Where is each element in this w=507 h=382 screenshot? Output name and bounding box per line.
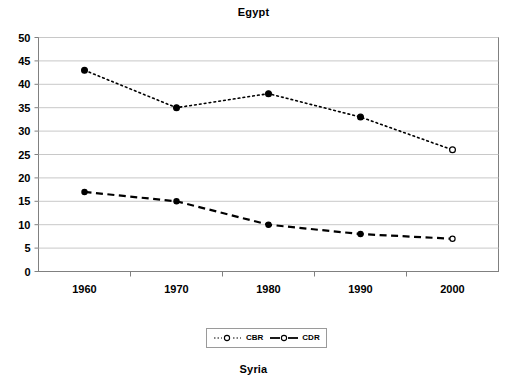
- data-point-cdr-1980: [266, 222, 271, 227]
- data-point-cbr-1990: [358, 114, 364, 120]
- legend-label-cdr: CDR: [302, 334, 319, 342]
- y-axis-tick-label: 10: [18, 219, 30, 231]
- data-point-cdr-2000: [450, 236, 455, 241]
- data-point-cdr-1990: [358, 231, 363, 236]
- y-axis-tick-label: 45: [18, 55, 30, 67]
- y-axis-tick-label: 50: [18, 32, 30, 44]
- x-axis-tick-label: 1980: [256, 283, 280, 295]
- x-axis-tick-label: 2000: [440, 283, 464, 295]
- data-point-cbr-1980: [266, 91, 272, 97]
- next-chart-title: Syria: [0, 363, 507, 375]
- chart-legend: CBR CDR: [206, 328, 327, 348]
- x-axis-tick-label: 1970: [164, 283, 188, 295]
- data-point-cbr-1970: [174, 105, 180, 111]
- y-axis-tick-labels: 05101520253035404550: [18, 32, 30, 278]
- legend-entry-cdr: CDR: [269, 333, 319, 343]
- y-axis-ticks: [35, 38, 39, 272]
- x-axis-tick-label: 1960: [72, 283, 96, 295]
- y-axis-tick-label: 5: [24, 242, 30, 254]
- x-axis-tick-label: 1990: [348, 283, 372, 295]
- chart-plot-svg: 05101520253035404550 1960197019801990200…: [0, 0, 507, 382]
- legend-label-cbr: CBR: [246, 334, 263, 342]
- data-point-cbr-1960: [82, 67, 88, 73]
- data-point-cdr-1970: [174, 199, 179, 204]
- data-point-cbr-2000: [450, 147, 456, 153]
- legend-swatch-cdr-icon: [269, 333, 299, 343]
- legend-swatch-cbr-icon: [213, 333, 243, 343]
- data-point-cdr-1960: [82, 189, 87, 194]
- y-axis-tick-label: 30: [18, 125, 30, 137]
- chart-container: Egypt 05101520253035404550 1960197019801…: [0, 0, 507, 382]
- x-axis-tick-labels: 19601970198019902000: [72, 283, 464, 295]
- y-axis-tick-label: 20: [18, 172, 30, 184]
- y-axis-tick-label: 0: [24, 266, 30, 278]
- y-axis-tick-label: 15: [18, 195, 30, 207]
- y-axis-tick-label: 40: [18, 78, 30, 90]
- y-axis-tick-label: 25: [18, 149, 30, 161]
- y-axis-tick-label: 35: [18, 102, 30, 114]
- x-axis-ticks: [131, 272, 407, 277]
- legend-entry-cbr: CBR: [213, 333, 263, 343]
